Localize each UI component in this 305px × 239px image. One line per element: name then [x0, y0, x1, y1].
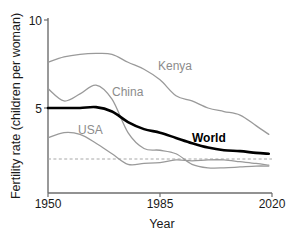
series-label-usa: USA	[78, 123, 103, 137]
y-axis-title: Fertility rate (children per woman)	[9, 13, 23, 199]
series-label-china: China	[112, 85, 144, 99]
y-tick-label-10: 10	[29, 14, 43, 28]
series-label-world: World	[192, 131, 226, 145]
x-tick-label-1950: 1950	[35, 197, 62, 211]
x-tick-label-2020: 2020	[259, 197, 286, 211]
series-label-kenya: Kenya	[158, 59, 192, 73]
fertility-rate-line-chart: 10 5 1950 1985 2020 Year Fertility rate …	[0, 0, 305, 239]
series-line-usa	[48, 132, 269, 165]
y-tick-label-5: 5	[35, 102, 42, 116]
chart-figure: 10 5 1950 1985 2020 Year Fertility rate …	[0, 0, 305, 239]
x-tick-label-1985: 1985	[147, 197, 174, 211]
x-axis-title: Year	[149, 217, 174, 231]
